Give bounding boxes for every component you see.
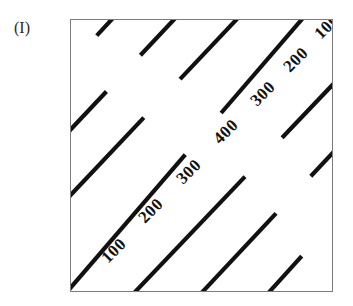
panel-label: (I) xyxy=(14,19,30,37)
contour-line-300-2-seg1 xyxy=(180,20,265,79)
contour-line-400-3-seg1 xyxy=(221,20,328,113)
contour-line-200-1-seg1 xyxy=(140,20,202,55)
contour-line-300-4-seg0 xyxy=(106,177,245,291)
contour-line-100-0-seg1 xyxy=(97,20,140,36)
contour-line-200-5-seg0 xyxy=(174,213,276,291)
plot-frame: 100200300400300200100 xyxy=(70,19,333,292)
contour-line-100-6-seg0 xyxy=(242,256,302,291)
contour-line-200-5-seg1 xyxy=(311,122,332,177)
contour-figure: (I) 100200300400300200100 xyxy=(0,0,353,306)
